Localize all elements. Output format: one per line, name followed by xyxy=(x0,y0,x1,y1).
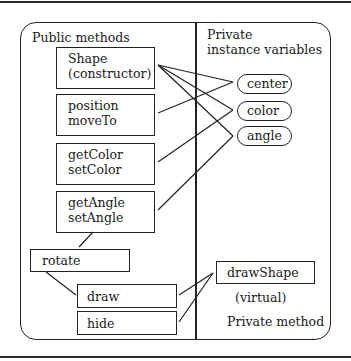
wire-hide-drawshape xyxy=(179,273,213,322)
wire-color-color xyxy=(158,110,233,162)
wire-shape-center xyxy=(158,65,233,82)
wire-position-center xyxy=(158,82,233,113)
wire-shape-color xyxy=(158,65,233,110)
wire-shape-angle xyxy=(158,65,233,136)
wire-angle-angle xyxy=(158,136,233,210)
wire-angle-rotate xyxy=(79,232,93,247)
wire-draw-drawshape xyxy=(179,273,213,295)
wire-rotate-draw xyxy=(46,272,76,295)
connector-lines xyxy=(0,0,351,361)
